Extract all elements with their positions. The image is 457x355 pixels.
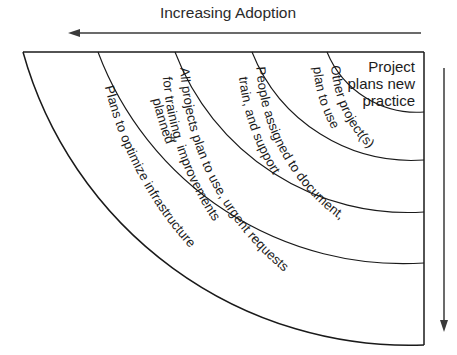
page-title: Increasing Adoption	[160, 4, 296, 21]
band-label-0: Project plans new practice	[347, 58, 415, 109]
band-0-line-2: plans new	[347, 75, 415, 92]
band-0-line-1: Project	[368, 58, 416, 75]
adoption-fan-diagram: Increasing Adoption Project p	[0, 0, 457, 355]
time-arrow	[440, 68, 448, 332]
band-0-line-3: practice	[362, 92, 415, 109]
band-label-2: People assigned to document, train, and …	[236, 66, 347, 222]
diagram-canvas: Increasing Adoption Project p	[0, 0, 457, 355]
increasing-adoption-arrow	[68, 29, 421, 37]
